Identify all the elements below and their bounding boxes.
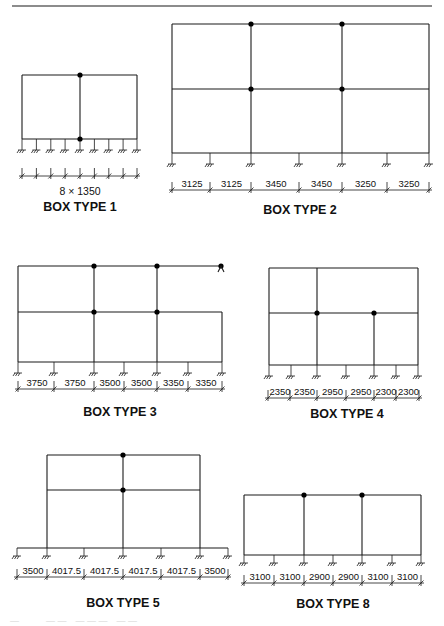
- box-type-title: BOX TYPE 5: [86, 596, 160, 610]
- ground-hatch: [317, 376, 319, 379]
- ground-hatch: [304, 563, 306, 566]
- ground-hatch: [157, 373, 159, 376]
- ground-hatch: [36, 150, 38, 153]
- ground-hatch: [289, 376, 291, 379]
- ground-hatch: [92, 150, 94, 153]
- ground-hatch: [80, 150, 82, 153]
- ground-hatch: [418, 376, 420, 379]
- ground-hatch: [342, 164, 344, 167]
- hinge-node-icon: [77, 136, 82, 141]
- dimension-label: 3350: [195, 377, 216, 388]
- ground-hatch: [16, 373, 18, 376]
- ground-hatch: [92, 373, 94, 376]
- ground-hatch: [424, 164, 426, 167]
- ground-hatch: [382, 164, 384, 167]
- ground-hatch: [302, 563, 304, 566]
- hinge-node-icon: [248, 86, 253, 91]
- ground-hatch: [340, 164, 342, 167]
- ground-hatch: [47, 556, 49, 559]
- ground-hatch: [155, 373, 157, 376]
- ground-hatch: [52, 373, 54, 376]
- ground-hatch: [51, 150, 53, 153]
- ground-hatch: [362, 563, 364, 566]
- hinge-node-icon: [154, 309, 159, 314]
- ground-hatch: [269, 376, 271, 379]
- ground-hatch: [94, 373, 96, 376]
- ground-hatch: [246, 164, 248, 167]
- hinge-node-icon: [371, 310, 376, 315]
- ground-hatch: [13, 373, 15, 376]
- dimension-label: 3250: [355, 178, 376, 189]
- frame-box5: 35004017.54017.54017.54017.53500BOX TYPE…: [12, 452, 232, 610]
- dimension-label: 2900: [309, 571, 330, 582]
- ground-hatch: [106, 150, 108, 153]
- hinge-node-icon: [120, 452, 125, 457]
- ground-hatch: [416, 563, 418, 566]
- frame-box8: 310031002900290031003100BOX TYPE 8: [239, 492, 425, 611]
- ground-hatch: [183, 373, 185, 376]
- dimension-label: 3100: [249, 571, 270, 582]
- ground-hatch: [200, 556, 202, 559]
- dimension-label: 3750: [64, 377, 85, 388]
- ground-hatch: [135, 150, 137, 153]
- box-type-title: BOX TYPE 8: [296, 597, 370, 611]
- ground-hatch: [341, 376, 343, 379]
- ground-hatch: [226, 556, 228, 559]
- dimension-label: 3100: [367, 571, 388, 582]
- ground-hatch: [18, 373, 20, 376]
- hinge-node-icon: [314, 310, 319, 315]
- dimension-label: 3500: [131, 377, 152, 388]
- ground-hatch: [419, 563, 421, 566]
- ground-hatch: [312, 376, 314, 379]
- dimension-label: 3500: [204, 565, 225, 576]
- ground-hatch: [121, 556, 123, 559]
- dimension-label: 3125: [221, 178, 242, 189]
- ground-hatch: [331, 563, 333, 566]
- ground-hatch: [337, 164, 339, 167]
- ground-hatch: [369, 376, 371, 379]
- ground-hatch: [299, 164, 301, 167]
- ground-hatch: [78, 150, 80, 153]
- ground-hatch: [372, 376, 374, 379]
- dimension-label: 3450: [265, 178, 286, 189]
- ground-hatch: [152, 373, 154, 376]
- structural-frames-figure: 8 × 1350BOX TYPE 13125312534503450325032…: [0, 0, 444, 626]
- hinge-node-icon: [77, 72, 82, 77]
- ground-hatch: [48, 150, 50, 153]
- ground-hatch: [251, 164, 253, 167]
- ground-hatch: [124, 373, 126, 376]
- ground-hatch: [346, 376, 348, 379]
- ground-hatch: [167, 164, 169, 167]
- ground-hatch: [297, 164, 299, 167]
- ground-hatch: [118, 150, 120, 153]
- dimension-label: 3100: [397, 571, 418, 582]
- ground-hatch: [274, 563, 276, 566]
- ground-hatch: [156, 556, 158, 559]
- ground-hatch: [228, 556, 230, 559]
- ground-hatch: [205, 164, 207, 167]
- dimension-label: 2950: [350, 386, 371, 397]
- hinge-node-icon: [301, 492, 306, 497]
- ground-hatch: [222, 373, 224, 376]
- hinge-node-icon: [248, 21, 253, 26]
- hinge-node-icon: [91, 263, 96, 268]
- ground-hatch: [84, 556, 86, 559]
- ground-hatch: [42, 556, 44, 559]
- ground-hatch: [118, 556, 120, 559]
- ground-hatch: [220, 373, 222, 376]
- dimension-label: 2300: [375, 386, 396, 397]
- frame-box3: 375037503500350033503350BOX TYPE 3: [13, 263, 226, 419]
- ground-hatch: [416, 376, 418, 379]
- figure-caption: — — — — — — — —: [10, 616, 137, 626]
- ground-hatch: [360, 563, 362, 566]
- ground-hatch: [34, 150, 36, 153]
- ground-hatch: [188, 373, 190, 376]
- ground-hatch: [344, 376, 346, 379]
- ground-hatch: [121, 150, 123, 153]
- ground-hatch: [15, 556, 17, 559]
- ground-hatch: [374, 376, 376, 379]
- ground-hatch: [65, 150, 67, 153]
- ground-hatch: [385, 164, 387, 167]
- ground-hatch: [413, 376, 415, 379]
- dimension-label: 4017.5: [128, 565, 157, 576]
